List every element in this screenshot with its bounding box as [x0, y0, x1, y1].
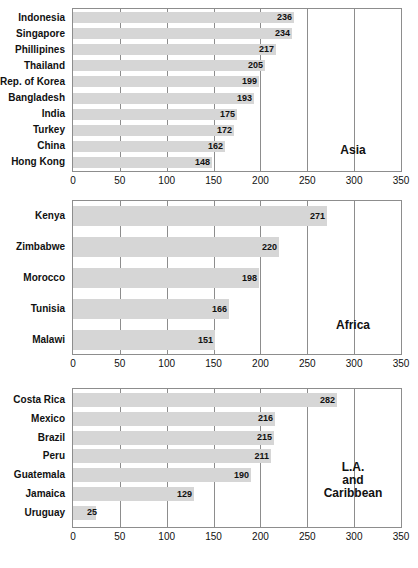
category-label-column: IndonesiaSingaporePhillipinesThailandRep…	[0, 8, 69, 172]
bar-value-label: 166	[205, 305, 227, 314]
bar	[73, 28, 292, 39]
bar-value-label: 172	[210, 126, 232, 135]
bar-value-label: 162	[201, 142, 223, 151]
bar-chart-figure: IndonesiaSingaporePhillipinesThailandRep…	[0, 0, 418, 568]
x-tick-label: 0	[70, 175, 76, 186]
bar	[73, 431, 274, 445]
bar-value-label: 216	[251, 414, 273, 423]
category-label: Indonesia	[18, 13, 65, 23]
category-label: India	[42, 109, 65, 119]
bar	[73, 76, 259, 87]
x-tick-label: 100	[158, 175, 175, 186]
category-label: Mexico	[31, 414, 65, 424]
plot-area: 236234217205199193175172162148Asia	[72, 8, 402, 172]
bar-value-label: 234	[268, 29, 290, 38]
bar-value-label: 198	[235, 274, 257, 283]
bar	[73, 12, 294, 23]
bar-value-label: 151	[191, 336, 213, 345]
bar-value-label: 199	[235, 77, 257, 86]
gridline-300	[354, 389, 355, 527]
category-label: Kenya	[35, 211, 65, 221]
bar	[73, 206, 327, 226]
x-tick-label: 50	[114, 358, 125, 369]
x-axis: 050100150200250300350	[72, 529, 402, 545]
x-tick-label: 300	[346, 175, 363, 186]
chart-panel-l-a-and-caribbean: Costa RicaMexicoBrazilPeruGuatemalaJamai…	[0, 388, 418, 546]
bar-value-label: 205	[241, 61, 263, 70]
plot-area: 271220198166151Africa	[72, 200, 402, 355]
category-label-column: KenyaZimbabweMoroccoTunisiaMalawi	[0, 200, 69, 355]
bar-value-label: 193	[230, 94, 252, 103]
x-tick-label: 350	[393, 531, 410, 542]
x-tick-label: 300	[346, 531, 363, 542]
bar-value-label: 236	[270, 13, 292, 22]
chart-panel-asia: IndonesiaSingaporePhillipinesThailandRep…	[0, 8, 418, 190]
category-label-column: Costa RicaMexicoBrazilPeruGuatemalaJamai…	[0, 388, 69, 528]
x-tick-label: 100	[158, 358, 175, 369]
category-label: Rep. of Korea	[0, 77, 65, 87]
x-tick-label: 50	[114, 175, 125, 186]
category-label: Jamaica	[26, 489, 65, 499]
x-tick-label: 200	[252, 531, 269, 542]
category-label: Tunisia	[31, 304, 65, 314]
x-axis: 050100150200250300350	[72, 356, 402, 372]
bar-value-label: 25	[75, 508, 97, 517]
bar	[73, 468, 251, 482]
category-label: Hong Kong	[11, 157, 65, 167]
x-tick-label: 150	[205, 358, 222, 369]
category-label: Morocco	[23, 273, 65, 283]
category-label: Phillipines	[15, 45, 65, 55]
bar-value-label: 148	[188, 158, 210, 167]
bar	[73, 393, 337, 407]
category-label: Thailand	[24, 61, 65, 71]
x-tick-label: 100	[158, 531, 175, 542]
category-label: Uruguay	[24, 508, 65, 518]
bar-value-label: 271	[303, 212, 325, 221]
category-label: Costa Rica	[13, 395, 65, 405]
x-tick-label: 250	[299, 175, 316, 186]
bar-value-label: 211	[247, 452, 269, 461]
plot-area: 28221621521119012925L.A.andCaribbean	[72, 388, 402, 528]
x-axis: 050100150200250300350	[72, 173, 402, 189]
bar-value-label: 129	[170, 490, 192, 499]
x-tick-label: 350	[393, 358, 410, 369]
category-label: China	[37, 141, 65, 151]
bar-value-label: 220	[255, 243, 277, 252]
x-tick-label: 250	[299, 531, 316, 542]
x-tick-label: 300	[346, 358, 363, 369]
region-label-line: Africa	[303, 319, 402, 332]
category-label: Malawi	[32, 335, 65, 345]
x-tick-label: 50	[114, 531, 125, 542]
bar	[73, 44, 276, 55]
x-tick-label: 350	[393, 175, 410, 186]
category-label: Brazil	[38, 433, 65, 443]
x-tick-label: 0	[70, 531, 76, 542]
category-label: Singapore	[16, 29, 65, 39]
category-label: Peru	[43, 451, 65, 461]
bar-value-label: 217	[252, 45, 274, 54]
bar-value-label: 215	[250, 433, 272, 442]
region-label-line: Asia	[303, 144, 402, 157]
bar-value-label: 190	[227, 471, 249, 480]
bar	[73, 449, 271, 463]
category-label: Guatemala	[14, 470, 65, 480]
bar	[73, 60, 265, 71]
bar	[73, 237, 279, 257]
bar-value-label: 175	[213, 110, 235, 119]
region-label: Asia	[303, 144, 402, 157]
region-label: Africa	[303, 319, 402, 332]
bar-value-label: 282	[313, 396, 335, 405]
region-label: L.A.andCaribbean	[303, 461, 402, 500]
bar	[73, 412, 275, 426]
category-label: Bangladesh	[8, 93, 65, 103]
x-tick-label: 200	[252, 175, 269, 186]
category-label: Zimbabwe	[16, 242, 65, 252]
region-label-line: Caribbean	[303, 487, 402, 500]
bar	[73, 93, 254, 104]
bar	[73, 268, 259, 288]
x-tick-label: 150	[205, 175, 222, 186]
x-tick-label: 150	[205, 531, 222, 542]
gridline-250	[307, 389, 308, 527]
category-label: Turkey	[33, 125, 65, 135]
x-tick-label: 0	[70, 358, 76, 369]
